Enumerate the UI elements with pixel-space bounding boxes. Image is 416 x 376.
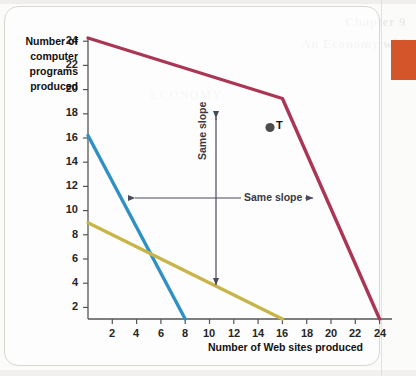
chart-axes <box>88 38 392 319</box>
x-tick-label: 2 <box>101 327 123 339</box>
point-t-label: T <box>276 119 283 131</box>
y-tick-label: 18 <box>52 106 78 118</box>
x-tick-label: 16 <box>271 327 293 339</box>
y-axis-title-line: computer <box>16 49 78 64</box>
curve-steep-ppf <box>88 136 185 320</box>
y-tick-label: 12 <box>52 179 78 191</box>
y-tick-label: 2 <box>52 300 78 312</box>
x-tick-label: 14 <box>247 327 269 339</box>
y-tick-label: 14 <box>52 155 78 167</box>
x-tick-label: 20 <box>320 327 342 339</box>
x-axis-ticks <box>112 319 379 324</box>
curve-flat-ppf <box>88 223 282 319</box>
x-tick-label: 6 <box>150 327 172 339</box>
same-slope-horizontal-label: Same slope <box>241 191 305 203</box>
x-tick-label: 10 <box>198 327 220 339</box>
y-tick-label: 16 <box>52 131 78 143</box>
y-tick-label: 10 <box>52 203 78 215</box>
y-axis-ticks <box>83 41 88 307</box>
x-tick-label: 24 <box>369 327 391 339</box>
y-axis-title-line: programs <box>16 64 78 79</box>
scanned-page-background: Chapter 9 An Economy with ECONOMY <box>0 0 416 376</box>
curve-combined-ppf <box>88 38 380 319</box>
x-tick-label: 18 <box>296 327 318 339</box>
x-axis-title: Number of Web sites produced <box>208 341 363 353</box>
x-tick-label: 22 <box>344 327 366 339</box>
x-tick-label: 8 <box>174 327 196 339</box>
y-tick-label: 8 <box>52 228 78 240</box>
x-tick-label: 4 <box>125 327 147 339</box>
y-tick-label: 4 <box>52 276 78 288</box>
y-axis-title-line: produced <box>16 79 78 94</box>
same-slope-vertical-label: Same slope <box>196 102 208 160</box>
point-t-marker <box>265 123 274 132</box>
chart-plot-area: 24 22 20 18 16 14 12 10 8 6 4 2 2 4 6 8 … <box>0 0 416 376</box>
x-tick-label: 12 <box>223 327 245 339</box>
y-tick-label: 6 <box>52 252 78 264</box>
y-axis-title-line: Number of <box>16 34 78 49</box>
y-axis-title: Number of computer programs produced <box>16 34 78 94</box>
